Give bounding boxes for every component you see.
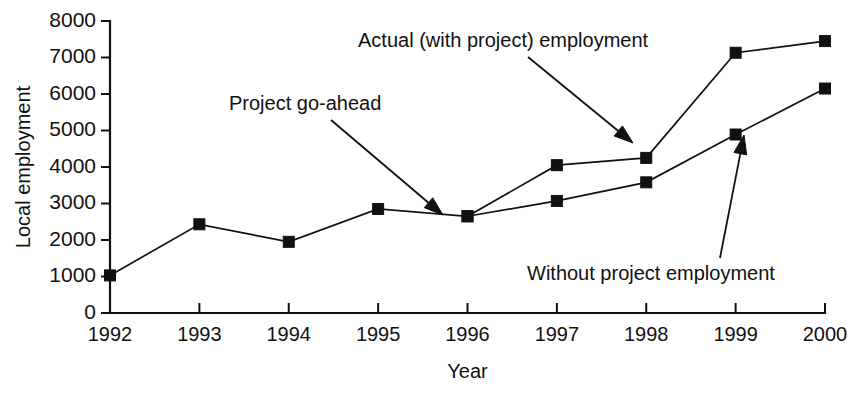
annotation-leader-line <box>720 154 740 258</box>
y-tick-label: 1000 <box>49 263 96 286</box>
y-tick-label: 2000 <box>49 227 96 250</box>
data-point-marker <box>105 270 116 281</box>
y-tick-label: 8000 <box>49 8 96 31</box>
data-point-marker <box>820 83 831 94</box>
data-point-marker <box>373 203 384 214</box>
x-tick-label: 1994 <box>267 323 312 345</box>
annotation-arrow-head <box>614 126 633 143</box>
x-tick-label: 1993 <box>177 323 222 345</box>
x-tick-label: 1998 <box>624 323 669 345</box>
data-point-marker <box>462 211 473 222</box>
chart-container: 010002000300040005000600070008000 Local … <box>0 0 849 403</box>
x-tick-label: 2000 <box>803 323 848 345</box>
annotation-actual-with-project: Actual (with project) employment <box>358 29 649 143</box>
annotation-project-go-ahead: Project go-ahead <box>229 92 443 215</box>
data-point-marker <box>730 129 741 140</box>
y-tick-label: 4000 <box>49 154 96 177</box>
y-tick-label: 6000 <box>49 81 96 104</box>
y-tick-labels: 010002000300040005000600070008000 <box>49 8 96 323</box>
data-point-marker <box>641 152 652 163</box>
annotation-label: Without project employment <box>527 262 775 284</box>
data-point-marker <box>551 160 562 171</box>
y-tick-marks <box>101 21 110 313</box>
data-point-marker <box>283 236 294 247</box>
data-point-marker <box>820 36 831 47</box>
x-tick-label: 1997 <box>535 323 580 345</box>
x-axis-title: Year <box>447 360 488 382</box>
data-point-marker <box>730 47 741 58</box>
x-tick-marks <box>110 303 825 313</box>
employment-line-chart: 010002000300040005000600070008000 Local … <box>0 0 849 403</box>
y-axis-title: Local employment <box>12 85 34 248</box>
x-tick-labels: 199219931994199519961997199819992000 <box>88 323 848 345</box>
y-tick-label: 7000 <box>49 44 96 67</box>
y-tick-label: 0 <box>84 300 96 323</box>
annotation-label: Actual (with project) employment <box>358 29 649 51</box>
annotation-leader-line <box>331 120 429 203</box>
data-series-layer <box>105 36 831 281</box>
x-tick-label: 1999 <box>713 323 758 345</box>
y-tick-label: 3000 <box>49 190 96 213</box>
annotation-leader-line <box>528 57 618 131</box>
series-line <box>110 41 825 275</box>
annotation-label: Project go-ahead <box>229 92 381 114</box>
x-tick-label: 1995 <box>356 323 401 345</box>
y-tick-label: 5000 <box>49 117 96 140</box>
x-tick-label: 1996 <box>445 323 490 345</box>
y-axis-group: 010002000300040005000600070008000 Local … <box>12 8 110 323</box>
x-tick-label: 1992 <box>88 323 133 345</box>
data-point-marker <box>551 195 562 206</box>
x-axis-group: 199219931994199519961997199819992000 Yea… <box>88 303 848 382</box>
data-point-marker <box>194 219 205 230</box>
data-point-marker <box>641 177 652 188</box>
